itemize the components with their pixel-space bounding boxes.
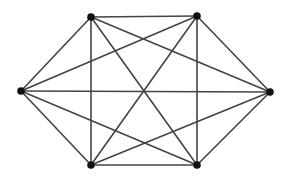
background xyxy=(0,0,293,178)
node-left xyxy=(17,87,25,95)
node-right xyxy=(266,88,274,96)
node-bottom-right xyxy=(193,161,201,169)
complete-graph-diagram xyxy=(0,0,293,178)
edge-top-left-top-right xyxy=(91,16,197,17)
node-top-left xyxy=(87,13,95,21)
node-top-right xyxy=(193,12,201,20)
node-bottom-left xyxy=(87,161,95,169)
edge-right-left xyxy=(21,91,270,92)
